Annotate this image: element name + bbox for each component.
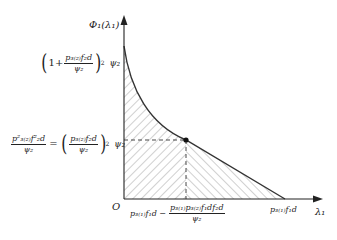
left-hatched-region — [124, 46, 186, 199]
origin-label: O — [112, 202, 120, 212]
lhs-numerator: p²₃₍₂₎f²₂d — [11, 135, 46, 145]
fraction: p₃₍₂₎f₂d ψ₂ — [64, 54, 93, 73]
x-tick-end-label: p₃₍₁₎f₁d — [270, 206, 297, 214]
rhs-fraction: p₃₍₂₎f₂d ψ₂ — [69, 135, 98, 154]
denominator: ψ₂ — [74, 64, 83, 73]
rhs-numerator: p₃₍₂₎f₂d — [69, 135, 98, 145]
psi-tail: ψ₂ — [110, 59, 121, 68]
rhs-denominator: ψ₂ — [79, 145, 88, 154]
numerator: p₃₍₁₎p₃₍₂₎f₁df₂d — [169, 204, 225, 214]
lead-term: p₃₍₁₎f₁d − — [130, 210, 166, 218]
y-tick-mid-label: p²₃₍₂₎f²₂d ψ₂ = ( p₃₍₂₎f₂d ψ₂ ) 2 ψ₂ — [10, 133, 125, 155]
y-axis-label: Φ₁(λ₁) — [89, 20, 119, 30]
marked-point — [183, 137, 188, 142]
lhs-denominator: ψ₂ — [24, 145, 33, 154]
psi-tail: ψ₂ — [114, 140, 125, 149]
denominator: ψ₂ — [192, 214, 201, 223]
x-axis-arrow-icon — [313, 196, 323, 203]
y-axis-arrow-icon — [121, 15, 128, 25]
numerator: p₃₍₂₎f₂d — [64, 54, 93, 64]
one-plus-text: 1+ — [49, 58, 64, 68]
x-tick-mid-label: p₃₍₁₎f₁d − p₃₍₁₎p₃₍₂₎f₁df₂d ψ₂ — [130, 204, 226, 223]
equals-sign: = — [49, 139, 57, 149]
lhs-fraction: p²₃₍₂₎f²₂d ψ₂ — [11, 135, 46, 154]
fraction: p₃₍₁₎p₃₍₂₎f₁df₂d ψ₂ — [169, 204, 225, 223]
y-tick-top-label: ( 1+ p₃₍₂₎f₂d ψ₂ ) 2 ψ₂ — [40, 52, 120, 74]
x-axis-label: λ₁ — [315, 207, 325, 217]
